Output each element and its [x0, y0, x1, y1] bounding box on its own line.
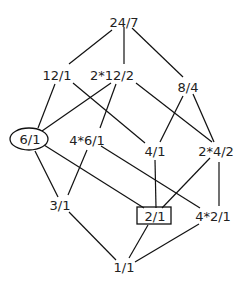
edge-n4x2_1-n1_1 — [135, 224, 199, 262]
edge-n4x6_1-n3_1 — [68, 150, 87, 195]
node-n2x4_2: 2*4/2 — [198, 144, 234, 159]
edge-n2x12_2-n4x6_1 — [100, 84, 116, 128]
node-label: 24/7 — [109, 15, 138, 30]
edge-n8_4-n4_1 — [160, 96, 183, 142]
node-n3_1: 3/1 — [50, 198, 71, 213]
node-label: 2*4/2 — [198, 144, 234, 159]
lattice-diagram: 24/712/12*12/28/46/14*6/14/12*4/23/12/14… — [0, 0, 242, 289]
node-n4x2_1: 4*2/1 — [195, 209, 231, 224]
node-label: 4*6/1 — [69, 133, 105, 148]
node-label: 2/1 — [145, 209, 166, 224]
node-n24_7: 24/7 — [109, 15, 138, 30]
node-n1_1: 1/1 — [114, 260, 135, 275]
node-n2x12_2: 2*12/2 — [90, 68, 134, 83]
edge-n4_1-n2_1 — [155, 160, 156, 208]
node-n6_1: 6/1 — [10, 128, 48, 150]
node-n2_1: 2/1 — [137, 207, 171, 224]
node-label: 4/1 — [145, 144, 166, 159]
nodes-group: 24/712/12*12/28/46/14*6/14/12*4/23/12/14… — [10, 15, 234, 275]
node-label: 12/1 — [42, 68, 71, 83]
node-label: 3/1 — [50, 198, 71, 213]
edge-n24_7-n12_1 — [69, 30, 112, 64]
edge-n2x4_2-n2_1 — [162, 158, 210, 208]
node-label: 2*12/2 — [90, 68, 134, 83]
node-label: 1/1 — [114, 260, 135, 275]
node-n4x6_1: 4*6/1 — [69, 133, 105, 148]
node-n8_4: 8/4 — [178, 80, 199, 95]
edges-group — [35, 27, 219, 262]
node-n12_1: 12/1 — [42, 68, 71, 83]
edge-n12_1-n6_1 — [38, 84, 55, 128]
edge-n2_1-n1_1 — [129, 225, 148, 258]
node-n4_1: 4/1 — [145, 144, 166, 159]
edge-n3_1-n1_1 — [69, 212, 116, 260]
edge-n24_7-n8_4 — [132, 28, 183, 77]
node-label: 4*2/1 — [195, 209, 231, 224]
edge-n6_1-n3_1 — [35, 151, 58, 197]
node-label: 6/1 — [20, 132, 41, 147]
node-label: 8/4 — [178, 80, 199, 95]
